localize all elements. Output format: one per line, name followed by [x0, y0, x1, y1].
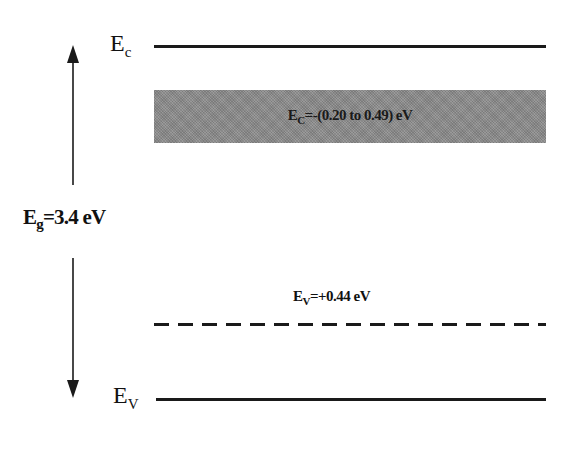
band-gap-label: Eg=3.4 eV	[23, 205, 105, 233]
shallow-level-label: EC=-(0.20 to 0.49) eV	[288, 107, 413, 126]
shallow-level-band: EC=-(0.20 to 0.49) eV	[154, 90, 546, 143]
valence-band-label: EV	[113, 382, 139, 413]
valence-band-edge-line	[156, 398, 546, 401]
conduction-band-edge-line	[154, 45, 546, 48]
conduction-band-label: Ec	[110, 30, 131, 61]
acceptor-level-dashed-line	[154, 323, 546, 326]
acceptor-level-label: EV=+0.44 eV	[293, 288, 370, 307]
